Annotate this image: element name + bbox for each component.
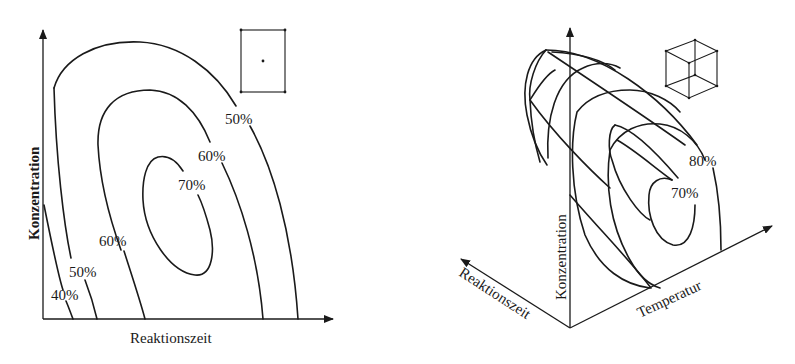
surface-80-right-edge xyxy=(713,168,721,250)
surface-cap-inner xyxy=(530,50,546,100)
contour-50-low xyxy=(54,88,97,319)
left-x-axis-label: Reaktionszeit xyxy=(130,330,212,346)
left-contour-plot: 40% 50% 60% 70% 60% 50% Reaktionszeit Ko… xyxy=(26,29,333,346)
label-70-left: 70% xyxy=(178,177,206,193)
right-temperatur-axis xyxy=(570,226,772,328)
contour-60-tail xyxy=(124,251,145,319)
surface-70-tube-outer xyxy=(609,125,650,220)
right-3d-surface: 80% 70% Konzentration Reaktionszeit Temp… xyxy=(456,28,772,328)
label-60-low: 60% xyxy=(99,233,127,249)
surface-ridge-3 xyxy=(570,195,651,288)
label-50-high: 50% xyxy=(225,111,253,127)
label-80: 80% xyxy=(689,153,717,169)
cube-wireframe-icon xyxy=(665,39,719,100)
right-konzentration-label: Konzentration xyxy=(553,214,569,300)
left-y-axis-label: Konzentration xyxy=(26,146,42,240)
surface-70-tube-mid xyxy=(617,140,672,180)
diagram-canvas: 40% 50% 60% 70% 60% 50% Reaktionszeit Ko… xyxy=(0,0,795,364)
contour-70 xyxy=(143,157,213,276)
surface-80-top-arc xyxy=(546,50,697,145)
surface-slice-4 xyxy=(608,124,705,288)
label-70-right: 70% xyxy=(671,185,699,201)
label-50-low: 50% xyxy=(69,264,97,280)
label-40: 40% xyxy=(51,287,79,303)
right-temperatur-label: Temperatur xyxy=(635,277,704,321)
rectangle-with-center-point-icon xyxy=(240,29,287,94)
label-60-high: 60% xyxy=(198,148,226,164)
right-reaktionszeit-label: Reaktionszeit xyxy=(456,264,534,322)
